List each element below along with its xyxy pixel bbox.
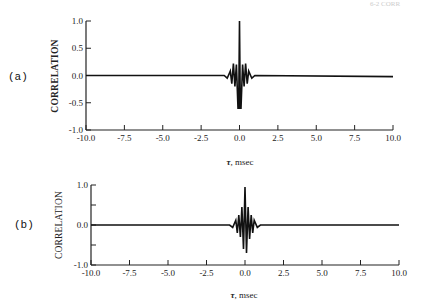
x-tick-label: -7.5 xyxy=(122,268,137,278)
x-tick-label: -5.0 xyxy=(156,133,171,143)
x-axis-label-a: τ, msec xyxy=(227,157,254,167)
x-tick-label: 0.0 xyxy=(234,133,246,143)
y-tick-label: 0.0 xyxy=(77,220,89,230)
x-tick-label: -10.0 xyxy=(77,133,96,143)
y-tick-label: 0.5 xyxy=(72,43,84,53)
x-tick-label: -5.0 xyxy=(161,268,176,278)
x-tick-label: -2.5 xyxy=(194,133,209,143)
x-tick-label: 10.0 xyxy=(391,268,407,278)
x-axis-unit-b: , msec xyxy=(235,290,258,300)
y-tick-label: 0.0 xyxy=(72,71,84,81)
y-tick-label: 1.0 xyxy=(77,180,89,190)
x-tick-label: 10.0 xyxy=(385,133,401,143)
figure: 6-2 CORR (a) CORRELATION τ, msec 1.00.50… xyxy=(0,0,421,301)
x-tick-label: 5.0 xyxy=(311,133,323,143)
x-tick-label: -7.5 xyxy=(117,133,132,143)
y-axis-label-a: CORRELATION xyxy=(50,39,60,112)
x-axis-label-b: τ, msec xyxy=(231,290,258,300)
corner-text: 6-2 CORR xyxy=(370,0,400,8)
x-tick-label: 5.0 xyxy=(316,268,328,278)
x-tick-label: 0.0 xyxy=(239,268,251,278)
x-tick-label: 7.5 xyxy=(355,268,367,278)
x-axis-unit-a: , msec xyxy=(231,157,254,167)
chart-panel-a: (a) CORRELATION τ, msec 1.00.50.0-0.5-1.… xyxy=(8,16,401,167)
chart-panel-b: (b) CORRELATION τ, msec 1.00.0-1.0-10.0-… xyxy=(14,180,407,300)
panel-label-a: (a) xyxy=(8,71,28,83)
correlation-curve-b xyxy=(91,187,399,253)
x-tick-label: -10.0 xyxy=(82,268,101,278)
x-tick-label: 7.5 xyxy=(349,133,361,143)
panel-label-b: (b) xyxy=(14,219,34,231)
y-axis-label-b: CORRELATION xyxy=(54,191,64,259)
x-tick-label: -2.5 xyxy=(199,268,214,278)
y-tick-label: -0.5 xyxy=(69,98,84,108)
correlation-curve-a xyxy=(86,21,393,108)
x-tick-label: 2.5 xyxy=(278,268,290,278)
x-tick-label: 2.5 xyxy=(272,133,284,143)
y-tick-label: 1.0 xyxy=(72,16,84,26)
